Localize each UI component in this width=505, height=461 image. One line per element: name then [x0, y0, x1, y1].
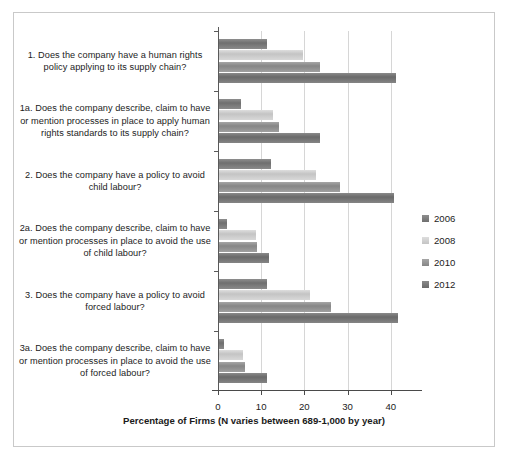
bar-2008-group-5 — [219, 290, 310, 300]
bar-2008-group-2 — [219, 110, 273, 120]
bar-2012-group-1 — [219, 73, 396, 83]
category-label: 3a. Does the company describe, claim to … — [16, 342, 214, 380]
category-axis-tick — [214, 271, 219, 272]
chart-legend: 2006200820102012 — [422, 207, 492, 295]
x-axis-tick-label: 40 — [371, 401, 411, 412]
bar-2008-group-1 — [219, 50, 303, 60]
bar-2006-group-1 — [219, 39, 267, 49]
bar-2012-group-2 — [219, 133, 320, 143]
bar-2008-group-6 — [219, 350, 243, 360]
plot-area: 010203040 — [218, 31, 408, 391]
gridline — [304, 31, 305, 391]
gridline — [391, 31, 392, 391]
bar-2006-group-5 — [219, 279, 267, 289]
x-axis-tick — [304, 390, 305, 395]
bar-2006-group-2 — [219, 99, 241, 109]
bar-2008-group-4 — [219, 230, 256, 240]
category-axis-tick — [214, 331, 219, 332]
category-label: 2a. Does the company describe, claim to … — [16, 222, 214, 260]
x-axis-tick-label: 10 — [241, 401, 281, 412]
legend-swatch-icon — [422, 237, 429, 244]
legend-item-2010[interactable]: 2010 — [422, 251, 492, 273]
category-axis-tick — [214, 151, 219, 152]
bar-2010-group-2 — [219, 122, 279, 132]
bar-2010-group-1 — [219, 62, 320, 72]
bar-2010-group-4 — [219, 242, 257, 252]
category-label: 2. Does the company have a policy to avo… — [16, 169, 214, 194]
legend-swatch-icon — [422, 259, 429, 266]
bar-chart: 1. Does the company have a human rights … — [14, 13, 496, 448]
x-axis-tick-label: 20 — [284, 401, 324, 412]
legend-item-2008[interactable]: 2008 — [422, 229, 492, 251]
category-axis-tick — [214, 211, 219, 212]
legend-swatch-icon — [422, 215, 429, 222]
bar-2006-group-3 — [219, 159, 271, 169]
bar-2012-group-6 — [219, 373, 267, 383]
bar-2010-group-6 — [219, 362, 245, 372]
legend-swatch-icon — [422, 281, 429, 288]
category-label: 3. Does the company have a policy to avo… — [16, 289, 214, 314]
x-axis-tick — [348, 390, 349, 395]
category-label: 1. Does the company have a human rights … — [16, 49, 214, 74]
category-axis-labels: 1. Does the company have a human rights … — [16, 31, 214, 391]
legend-label: 2006 — [434, 213, 455, 224]
bar-2012-group-5 — [219, 313, 398, 323]
bar-2006-group-4 — [219, 219, 227, 229]
bar-2012-group-3 — [219, 193, 394, 203]
category-label: 1a. Does the company describe, claim to … — [16, 102, 214, 140]
category-axis-tick — [214, 91, 219, 92]
x-axis-title: Percentage of Firms (N varies between 68… — [84, 415, 424, 426]
figure-frame: 1. Does the company have a human rights … — [13, 12, 495, 447]
bar-2006-group-6 — [219, 339, 224, 349]
category-axis-tick — [214, 31, 219, 32]
bar-2008-group-3 — [219, 170, 316, 180]
x-axis-tick — [391, 390, 392, 395]
legend-label: 2012 — [434, 279, 455, 290]
legend-label: 2010 — [434, 257, 455, 268]
x-axis-tick — [261, 390, 262, 395]
gridline — [348, 31, 349, 391]
bar-2010-group-3 — [219, 182, 340, 192]
bar-2010-group-5 — [219, 302, 331, 312]
bar-2012-group-4 — [219, 253, 269, 263]
x-axis-tick-label: 30 — [328, 401, 368, 412]
x-axis-tick — [218, 390, 219, 395]
gridline — [261, 31, 262, 391]
legend-label: 2008 — [434, 235, 455, 246]
legend-item-2006[interactable]: 2006 — [422, 207, 492, 229]
x-axis-tick-label: 0 — [198, 401, 238, 412]
legend-item-2012[interactable]: 2012 — [422, 273, 492, 295]
